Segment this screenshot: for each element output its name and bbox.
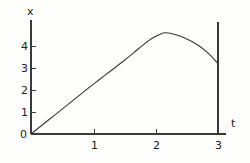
- x-axis-title: t: [231, 118, 235, 129]
- y-axis-title: x: [27, 6, 34, 17]
- x-tick-label-3: 3: [215, 140, 222, 151]
- y-tick-label-0: 0: [20, 129, 27, 140]
- x-tick-label-1: 1: [91, 140, 98, 151]
- data-curve: [31, 33, 218, 134]
- plot-area: [0, 0, 250, 163]
- x-tick-marks: [94, 129, 218, 134]
- y-tick-label-4: 4: [21, 41, 28, 52]
- y-tick-label-3: 3: [21, 63, 28, 74]
- y-tick-label-2: 2: [21, 85, 28, 96]
- chart-figure: 0 1 2 3 4 1 2 3 x t: [0, 0, 250, 163]
- y-tick-marks: [31, 46, 36, 112]
- x-tick-label-2: 2: [153, 140, 160, 151]
- y-tick-label-1: 1: [21, 107, 28, 118]
